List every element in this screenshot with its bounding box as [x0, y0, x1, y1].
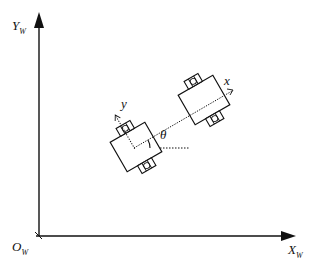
world-origin-label: OW — [12, 240, 28, 257]
robot-y-label: y — [121, 97, 127, 110]
robot-1 — [100, 104, 167, 179]
world-y-label: YW — [12, 19, 26, 36]
world-x-axis — [35, 231, 296, 241]
robot-pose-diagram — [0, 0, 314, 268]
world-y-axis — [34, 12, 44, 236]
theta-label: θ — [160, 128, 166, 141]
robot-x-arrow-icon — [227, 89, 233, 95]
robot-x-label: x — [224, 74, 230, 87]
world-x-label: XW — [288, 243, 303, 260]
